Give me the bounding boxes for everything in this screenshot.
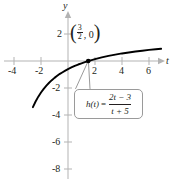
y-tick-label--8: -8 [52, 164, 60, 174]
y-axis-label: y [63, 1, 67, 11]
comma-zero-text: , 0 [84, 30, 94, 41]
y-tick-label--2: -2 [52, 83, 60, 93]
marked-point-dot [86, 59, 91, 64]
point-coordinate-label: ( 3 2 , 0 ) [70, 24, 100, 41]
x-axis-label: t [166, 56, 169, 66]
y-tick-label-2: 2 [57, 29, 62, 39]
formula-denominator: t + 5 [111, 106, 129, 116]
x-tick-label-6: 6 [146, 66, 151, 76]
formula-lhs: h(t) [86, 100, 99, 109]
x-axis-arrow [158, 58, 165, 64]
close-paren: ) [94, 24, 101, 41]
formula-numerator: 2t − 3 [109, 92, 131, 102]
formula-expression: h(t) = 2t − 3 t + 5 [86, 92, 131, 116]
x-tick-label--4: -4 [8, 66, 16, 76]
fraction-numerator: 3 [77, 24, 83, 32]
fraction-denominator: 2 [77, 33, 83, 41]
x-tick-label-2: 2 [92, 66, 97, 76]
formula-fraction: 2t − 3 t + 5 [109, 92, 131, 116]
open-paren: ( [70, 24, 77, 41]
y-axis-arrow [65, 11, 71, 18]
y-tick-label--4: -4 [52, 110, 60, 120]
formula-equals: = [101, 100, 106, 109]
x-tick-label--2: -2 [35, 66, 43, 76]
formula-callout-box: h(t) = 2t − 3 t + 5 [74, 89, 143, 119]
fraction-three-halves: 3 2 [77, 24, 83, 41]
x-tick-label-4: 4 [119, 66, 124, 76]
function-graph-figure: -4 -2 2 4 6 2 -2 -4 -6 -8 t y ( 3 2 , 0 … [0, 0, 174, 179]
formula-fraction-bar [109, 104, 131, 105]
y-tick-label--6: -6 [52, 137, 60, 147]
callout-leader-lines [76, 63, 91, 90]
